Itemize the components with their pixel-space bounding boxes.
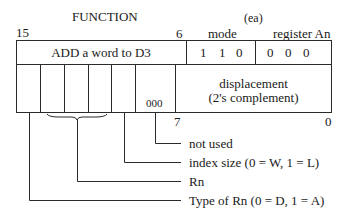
- brace-icon: [47, 114, 107, 120]
- annotation-rn: Rn: [189, 175, 204, 188]
- annotation-not-used: not used: [189, 137, 233, 150]
- leader-lines: [0, 0, 344, 216]
- annotation-index-size: index size (0 = W, 1 = L): [189, 156, 319, 169]
- annotation-type-of-rn: Type of Rn (0 = D, 1 = A): [189, 194, 324, 207]
